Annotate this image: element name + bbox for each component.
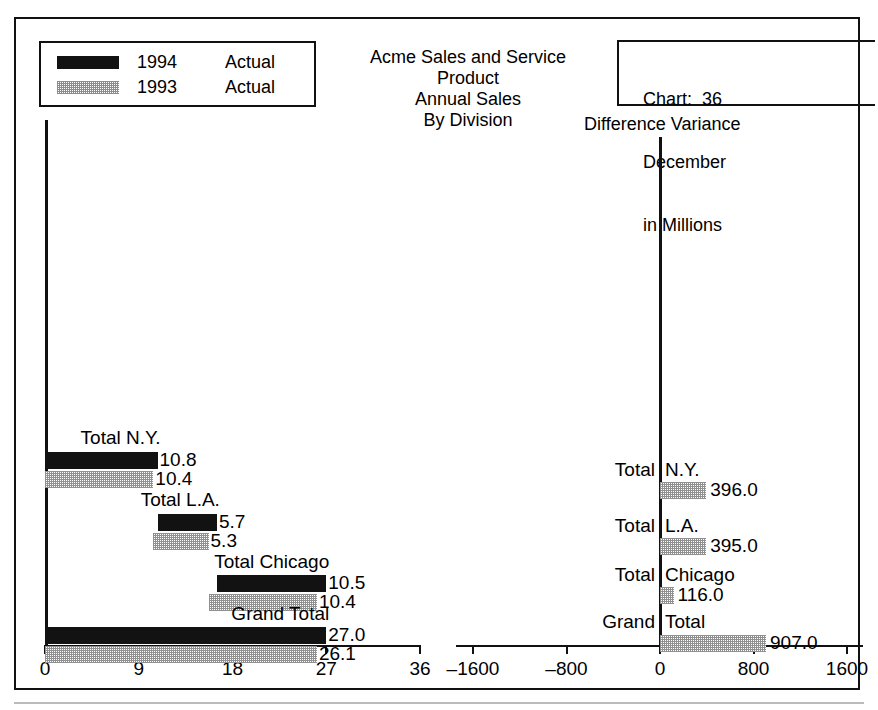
bar-value-1993: 26.1 — [319, 645, 356, 662]
right-row-label-suffix: N.Y. — [665, 459, 700, 481]
right-zero-axis — [659, 137, 662, 645]
variance-title: Difference Variance — [584, 114, 740, 135]
right-row-label-prefix: Total — [456, 459, 655, 481]
variance-bar — [660, 635, 766, 652]
right-tick-label: 1600 — [826, 658, 868, 680]
left-row-label: Total N.Y. — [16, 427, 161, 449]
bar-value-1994: 10.8 — [160, 451, 197, 468]
variance-bar-value: 395.0 — [710, 537, 758, 554]
bar-value-1994: 5.7 — [219, 513, 245, 530]
bar-value-1993: 5.3 — [211, 532, 237, 549]
variance-bar-value: 907.0 — [770, 634, 818, 651]
bar-1993 — [45, 471, 153, 488]
right-tick — [472, 645, 474, 654]
right-tick-label: –800 — [545, 658, 587, 680]
variance-bar-value: 396.0 — [710, 481, 758, 498]
bar-1994 — [158, 514, 217, 531]
right-tick-label: 800 — [738, 658, 770, 680]
bar-value-1994: 27.0 — [328, 626, 365, 643]
bar-1993 — [45, 646, 317, 663]
variance-bar — [660, 538, 706, 555]
bar-1993 — [153, 533, 208, 550]
right-row-label-prefix: Total — [456, 564, 655, 586]
right-row-label-suffix: Chicago — [665, 564, 735, 586]
variance-bar-value: 116.0 — [678, 586, 724, 603]
variance-chart: Difference Variance –1600–80008001600 To… — [456, 19, 862, 692]
left-row-label: Total Chicago — [16, 551, 329, 573]
bar-1994 — [217, 575, 326, 592]
sales-cascade-chart: 09182736 Total N.Y.10.810.4Total L.A.5.7… — [16, 19, 456, 692]
bar-value-1994: 10.5 — [328, 574, 365, 591]
bar-1994 — [45, 627, 326, 644]
variance-bar — [660, 587, 674, 604]
right-row-label-prefix: Total — [456, 515, 655, 537]
left-row-label: Grand Total — [16, 603, 329, 625]
right-row-label-suffix: L.A. — [665, 515, 699, 537]
right-row-label-prefix: Grand — [456, 611, 655, 633]
right-row-label-suffix: Total — [665, 611, 705, 633]
right-tick-label: –1600 — [447, 658, 500, 680]
bar-value-1993: 10.4 — [155, 470, 192, 487]
right-tick-label: 0 — [655, 658, 666, 680]
right-tick — [846, 645, 848, 654]
variance-bar — [660, 482, 706, 499]
left-tick-label: 36 — [409, 658, 430, 680]
left-row-label: Total L.A. — [16, 489, 220, 511]
left-tick — [419, 645, 421, 654]
page-underline — [14, 702, 864, 704]
right-tick — [566, 645, 568, 654]
bar-1994 — [45, 452, 158, 469]
chart-frame: 1994 Actual 1993 Actual Acme Sales and S… — [14, 17, 860, 690]
